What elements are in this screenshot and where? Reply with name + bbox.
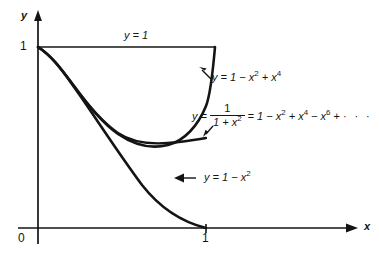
annotation-quartic-mid: + x [259, 71, 277, 83]
annotation-parabola-prefix: y = 1 − x [204, 171, 246, 183]
annotation-parabola: y = 1 − x2 [204, 172, 251, 183]
annotation-rational-ellipsis: · · · [343, 110, 372, 122]
annotation-line-y-equals-one-text: y = 1 [124, 29, 148, 41]
annotation-rational-equals: = 1 − x [248, 110, 282, 122]
math-figure: y x 1 0 1 y = 1 y = 1 − x2 + x4 y = 1 1 … [0, 0, 379, 256]
origin-label: 0 [18, 232, 25, 244]
annotation-rational-denominator-text: 1 + x [213, 116, 237, 128]
y-axis [34, 10, 42, 244]
x-tick-label-one: 1 [202, 232, 209, 244]
annotation-quartic-prefix: y = 1 − x [212, 71, 254, 83]
annotation-rational-tail: + [331, 110, 344, 122]
annotation-line-y-equals-one: y = 1 [124, 30, 148, 41]
x-axis-label: x [364, 221, 370, 232]
y-tick-label-one: 1 [20, 40, 27, 52]
y-axis-label: y [21, 10, 27, 21]
annotation-rational-denominator: 1 + x2 [210, 116, 245, 129]
annotation-quartic: y = 1 − x2 + x4 [212, 72, 281, 83]
annotation-rational: y = 1 1 + x2 = 1 − x2 + x4 − x6 + · · · [192, 103, 372, 129]
leader-arrow-parabola [174, 174, 196, 183]
curve-rational [38, 47, 206, 143]
annotation-rational-plus: + x [286, 110, 304, 122]
annotation-quartic-exponent-four: 4 [277, 69, 281, 78]
annotation-rational-series: = 1 − x2 + x4 − x6 + · · · [248, 111, 373, 122]
curve-quartic [38, 47, 215, 147]
annotation-rational-minus: − x [308, 110, 326, 122]
x-axis [18, 224, 358, 233]
annotation-rational-fraction: 1 1 + x2 [210, 102, 245, 128]
annotation-rational-lead: y = [192, 111, 207, 122]
annotation-parabola-exponent-two: 2 [246, 169, 250, 178]
leader-arrow-quartic [199, 67, 211, 79]
annotation-rational-denominator-exponent: 2 [237, 114, 241, 123]
